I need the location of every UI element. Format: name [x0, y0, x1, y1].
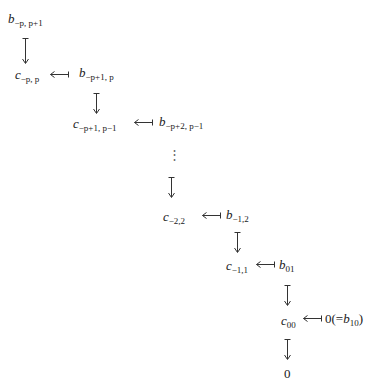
node-subscript: −p+2, p−1: [166, 121, 204, 131]
maps-to-left-arrow-icon: [256, 261, 275, 268]
node-subscript: −p+1, p−1: [79, 123, 117, 133]
maps-to-down-arrow-icon: [284, 285, 291, 306]
node-b-minus-p-plus-1-p: b−p+1, p: [79, 66, 114, 79]
node-subscript: 01: [286, 264, 295, 274]
node-c-minus-1-1: c−1,1: [226, 259, 248, 272]
maps-to-down-arrow-icon: [168, 177, 175, 198]
maps-to-left-arrow-icon: [134, 119, 153, 126]
node-b-minus-1-2: b−1,2: [226, 208, 249, 221]
maps-to-down-arrow-icon: [22, 38, 29, 64]
node-zero-equals-b-10: 0(=b10): [325, 312, 363, 325]
maps-to-down-arrow-icon: [234, 232, 241, 253]
node-prefix: 0: [284, 366, 291, 381]
node-c-minus-p-p: c−p, p: [15, 68, 39, 81]
node-b-minus-p-p-plus-1: b−p, p+1: [8, 12, 43, 25]
node-subscript: −p, p: [21, 74, 40, 84]
node-subscript: 00: [287, 320, 296, 330]
node-prefix: 0(=: [325, 311, 343, 326]
maps-to-down-arrow-icon: [93, 93, 100, 114]
maps-to-down-arrow-icon: [284, 339, 291, 360]
vertical-ellipsis: ⋮: [168, 148, 181, 161]
node-suffix: ): [359, 311, 363, 326]
node-subscript: −1,1: [232, 265, 248, 275]
node-c-00: c00: [281, 314, 296, 327]
node-b-01: b01: [279, 258, 295, 271]
maps-to-left-arrow-icon: [303, 315, 322, 322]
node-c-minus-p-plus-1-p-minus-1: c−p+1, p−1: [73, 117, 117, 130]
node-c-minus-2-2: c−2,2: [163, 210, 185, 223]
maps-to-left-arrow-icon: [202, 212, 221, 219]
node-subscript: −p, p+1: [15, 18, 43, 28]
node-zero-final: 0: [284, 367, 291, 380]
node-subscript: −1,2: [233, 214, 249, 224]
maps-to-left-arrow-icon: [50, 71, 69, 78]
node-subscript: 10: [350, 318, 359, 328]
node-subscript: −2,2: [169, 216, 185, 226]
node-subscript: −p+1, p: [86, 72, 114, 82]
node-b-minus-p-plus-2-p-minus-1: b−p+2, p−1: [159, 115, 203, 128]
